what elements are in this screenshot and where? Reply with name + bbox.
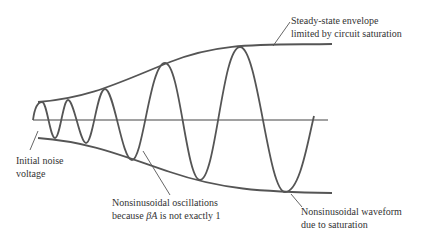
initial-noise-label: Initial noise voltage bbox=[16, 154, 64, 180]
nonsinusoidal-oscillations-label: Nonsinusoidal oscillations because βA is… bbox=[112, 196, 221, 222]
noise-leader bbox=[30, 131, 38, 150]
beta-a-symbol: βA bbox=[146, 210, 157, 221]
lower-envelope-curve bbox=[38, 138, 332, 193]
steady-state-envelope-label: Steady-state envelope limited by circuit… bbox=[291, 14, 402, 40]
label-text: because bbox=[112, 210, 146, 221]
label-line: Steady-state envelope bbox=[291, 14, 402, 27]
label-line: limited by circuit saturation bbox=[291, 27, 402, 40]
label-line: Initial noise bbox=[16, 154, 64, 167]
label-line: Nonsinusoidal waveform bbox=[301, 205, 402, 218]
nonsinusoidal-waveform-label: Nonsinusoidal waveform due to saturation bbox=[301, 205, 402, 231]
label-line: voltage bbox=[16, 167, 64, 180]
label-line: because βA is not exactly 1 bbox=[112, 209, 221, 222]
nonsinusoidal-osc-leader bbox=[143, 151, 170, 195]
label-line: due to saturation bbox=[301, 218, 402, 231]
label-text: is not exactly 1 bbox=[157, 210, 220, 221]
upper-envelope-curve bbox=[38, 44, 332, 102]
label-line: Nonsinusoidal oscillations bbox=[112, 196, 221, 209]
envelope-leader bbox=[273, 22, 290, 46]
